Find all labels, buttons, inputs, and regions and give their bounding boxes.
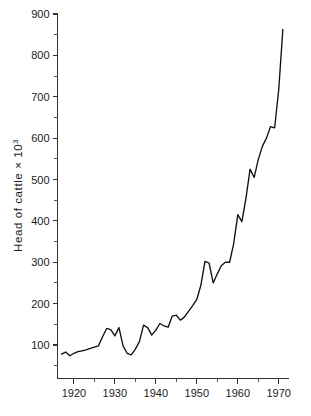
cattle-line-chart: 100200300400500600700800900 192019301940… [0,0,311,416]
y-axis-title: Head of cattle × 103 [11,139,24,252]
y-tick-label: 900 [31,8,49,20]
chart-figure: 100200300400500600700800900 192019301940… [0,0,311,416]
y-tick-label: 200 [31,298,49,310]
y-tick-label: 100 [31,339,49,351]
y-tick-label: 400 [31,215,49,227]
y-axis-title-text: Head of cattle × 103 [11,139,24,252]
x-tick-label: 1930 [103,387,127,399]
x-tick-label: 1950 [185,387,209,399]
x-tick-label: 1960 [226,387,250,399]
data-series-line [62,29,283,355]
y-tick-label: 700 [31,91,49,103]
x-axis-ticks: 192019301940195019601970 [62,379,291,399]
y-axis-ticks: 100200300400500600700800900 [31,8,57,366]
x-tick-label: 1920 [62,387,86,399]
x-tick-label: 1970 [267,387,291,399]
x-tick-label: 1940 [144,387,168,399]
y-tick-label: 600 [31,132,49,144]
y-tick-label: 800 [31,49,49,61]
axis-spines [58,13,290,379]
y-tick-label: 300 [31,256,49,268]
y-tick-label: 500 [31,174,49,186]
